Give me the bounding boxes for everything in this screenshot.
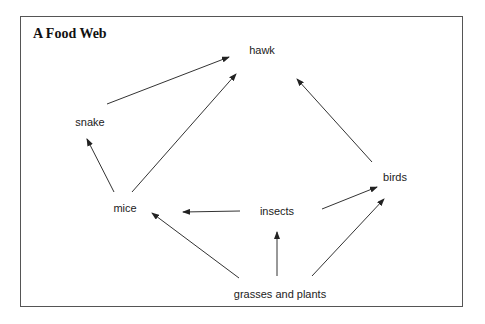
node-snake: snake: [75, 116, 104, 128]
arrow-snake-to-hawk: [107, 57, 229, 104]
node-hawk: hawk: [249, 44, 275, 56]
node-grasses-and-plants: grasses and plants: [234, 288, 326, 300]
arrow-insects-to-mice: [183, 211, 240, 212]
arrow-insects-to-birds: [322, 187, 377, 209]
arrow-grasses-to-birds: [312, 199, 384, 276]
node-insects: insects: [260, 205, 294, 217]
arrow-birds-to-hawk: [297, 79, 372, 162]
arrow-mice-to-snake: [87, 139, 114, 192]
node-birds: birds: [383, 171, 407, 183]
arrow-grasses-to-mice: [152, 213, 239, 278]
food-web-edges: [0, 0, 485, 324]
node-mice: mice: [113, 202, 136, 214]
arrow-mice-to-hawk: [132, 74, 236, 192]
